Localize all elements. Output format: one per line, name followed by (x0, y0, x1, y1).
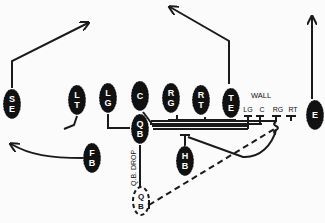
player-rg: RG (162, 83, 180, 113)
player-label-letter: E (9, 104, 15, 114)
qb-drop-ghost-letter: Q (138, 192, 144, 201)
player-label-letter: E (228, 103, 234, 113)
player-label-letter: L (74, 90, 80, 100)
qb-drop-label: Q.B. DROP (130, 149, 138, 186)
play-diagram: SELTLGCRGRTTEEQBFBHB Q B Q.B. DROP WALL … (0, 0, 325, 223)
player-label-letter: G (104, 98, 111, 108)
player-rt: RT (192, 85, 210, 115)
player-lg: LG (99, 83, 117, 113)
player-label-letter: T (198, 100, 204, 110)
player-label-letter: B (137, 129, 144, 139)
player-label-letter: B (182, 161, 189, 171)
wall-label-c: C (259, 106, 264, 113)
route-fb (11, 144, 83, 158)
player-label-letter: E (312, 110, 318, 120)
player-label-letter: F (89, 148, 95, 158)
player-label-letter: G (167, 98, 174, 108)
route-lg-block (108, 114, 130, 128)
route-hb (180, 122, 278, 157)
player-label-letter: T (74, 100, 80, 110)
player-e: E (306, 100, 324, 130)
player-label-letter: S (9, 94, 15, 104)
player-label-letter: L (105, 88, 111, 98)
player-fb: FB (83, 143, 101, 173)
player-label-letter: B (89, 158, 96, 168)
player-qb: QB (131, 114, 149, 144)
player-se: SE (3, 89, 21, 119)
wall-label-lg: LG (243, 106, 252, 113)
qb-drop-path (133, 128, 276, 215)
player-hb: HB (176, 146, 194, 176)
player-label-letter: T (228, 93, 234, 103)
player-label-letter: C (137, 91, 144, 101)
wall-label-rt: RT (288, 106, 298, 113)
route-te (170, 7, 229, 84)
route-lt-block (64, 116, 77, 129)
player-label-letter: H (182, 151, 189, 161)
player-lt: LT (68, 85, 86, 115)
wall-labels: LGCRGRT (243, 106, 298, 113)
player-label-letter: R (168, 88, 175, 98)
wall-label-rg: RG (273, 106, 284, 113)
wall-lines (143, 112, 296, 129)
player-te: TE (222, 88, 240, 118)
player-label-letter: Q (136, 119, 143, 129)
player-c: C (131, 81, 149, 111)
qb-drop-ghost-letter: B (138, 202, 144, 211)
wall-title: WALL (251, 91, 271, 100)
player-label-letter: R (198, 90, 205, 100)
route-se (12, 23, 88, 88)
